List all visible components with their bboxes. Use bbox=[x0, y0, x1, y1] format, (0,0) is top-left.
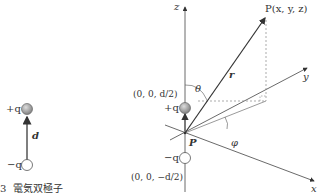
negative-charge-left bbox=[22, 160, 33, 171]
plus-q-label: +q bbox=[164, 103, 179, 113]
y-label: y bbox=[303, 72, 309, 82]
caption-number: 3 bbox=[0, 183, 6, 194]
negative-charge bbox=[180, 153, 191, 164]
point-label: P(x, y, z) bbox=[265, 4, 307, 14]
projection-line bbox=[185, 101, 266, 133]
minus-q-label: −q bbox=[164, 153, 179, 163]
positive-charge-left bbox=[22, 104, 33, 115]
coord-top: (0, 0, d/2) bbox=[133, 90, 177, 99]
positive-charge bbox=[180, 103, 191, 114]
plus-q-label-left: +q bbox=[6, 104, 21, 114]
r-label: r bbox=[229, 70, 234, 80]
caption-title: 電気双極子 bbox=[13, 183, 63, 194]
theta-label: θ bbox=[195, 84, 201, 94]
z-label: z bbox=[174, 2, 179, 12]
y-axis bbox=[170, 68, 307, 140]
r-vector bbox=[185, 18, 265, 133]
x-label: x bbox=[311, 184, 317, 194]
figure-caption: 3 電気双極子 bbox=[0, 180, 63, 195]
d-label: d bbox=[32, 131, 39, 141]
phi-label: φ bbox=[231, 138, 238, 148]
minus-q-label-left: −q bbox=[7, 160, 22, 170]
coord-bottom: (0, 0, −d/2) bbox=[131, 173, 183, 182]
origin-label: P bbox=[189, 138, 197, 148]
